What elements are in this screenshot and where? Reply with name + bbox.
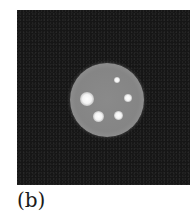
hot-spot-bottom-left	[93, 111, 104, 122]
hot-spot-right	[124, 94, 132, 102]
hot-spot-bottom-right	[114, 111, 123, 120]
panel-label: (b)	[17, 188, 45, 212]
hot-spot-large-left	[80, 92, 94, 106]
phantom-image	[17, 10, 190, 185]
hot-spot-small-top	[114, 77, 120, 83]
